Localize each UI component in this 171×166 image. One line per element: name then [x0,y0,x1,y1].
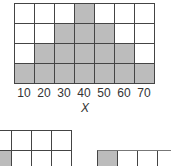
grid-cell [158,151,171,166]
grid-cell [95,44,115,64]
grid-cell [0,151,12,166]
grid-cell [52,151,72,166]
grid-cell [12,131,32,151]
grid-cell [135,4,155,24]
grid-cell [0,131,12,151]
grid-cell [32,151,52,166]
x-tick: 20 [34,86,54,100]
grid-cell [138,151,158,166]
grid-cell [95,64,115,84]
x-tick: 30 [54,86,74,100]
grid-cell [75,44,95,64]
grid-cell [75,24,95,44]
x-tick: 40 [74,86,94,100]
grid-cell [35,24,55,44]
grid-cell [115,44,135,64]
grid-cell [55,24,75,44]
grid-cell [95,4,115,24]
partial-grid-lower-left [0,130,72,166]
grid-cell [55,44,75,64]
grid-cell [35,64,55,84]
grid-cell [52,131,72,151]
grid-cell [115,24,135,44]
grid-cell [55,4,75,24]
grid-cell [35,44,55,64]
grid-cell [135,24,155,44]
x-tick: 70 [134,86,154,100]
x-tick: 50 [94,86,114,100]
grid-cell [75,4,95,24]
histogram-grid [14,3,155,84]
x-tick: 10 [14,86,34,100]
grid-cell [15,4,35,24]
grid-cell [135,44,155,64]
grid-cell [95,24,115,44]
grid-cell [75,64,95,84]
grid-cell [115,4,135,24]
grid-cell [15,24,35,44]
grid-cell [15,64,35,84]
grid-cell [135,64,155,84]
grid-cell [115,64,135,84]
partial-grid-lower-right [97,150,171,166]
x-tick: 60 [114,86,134,100]
grid-cell [118,151,138,166]
grid-cell [35,4,55,24]
grid-cell [98,151,118,166]
grid-cell [12,151,32,166]
grid-cell [32,131,52,151]
x-axis-label: X [14,101,156,115]
grid-cell [15,44,35,64]
x-axis-ticks: 10 20 30 40 50 60 70 [14,86,156,100]
grid-cell [55,64,75,84]
